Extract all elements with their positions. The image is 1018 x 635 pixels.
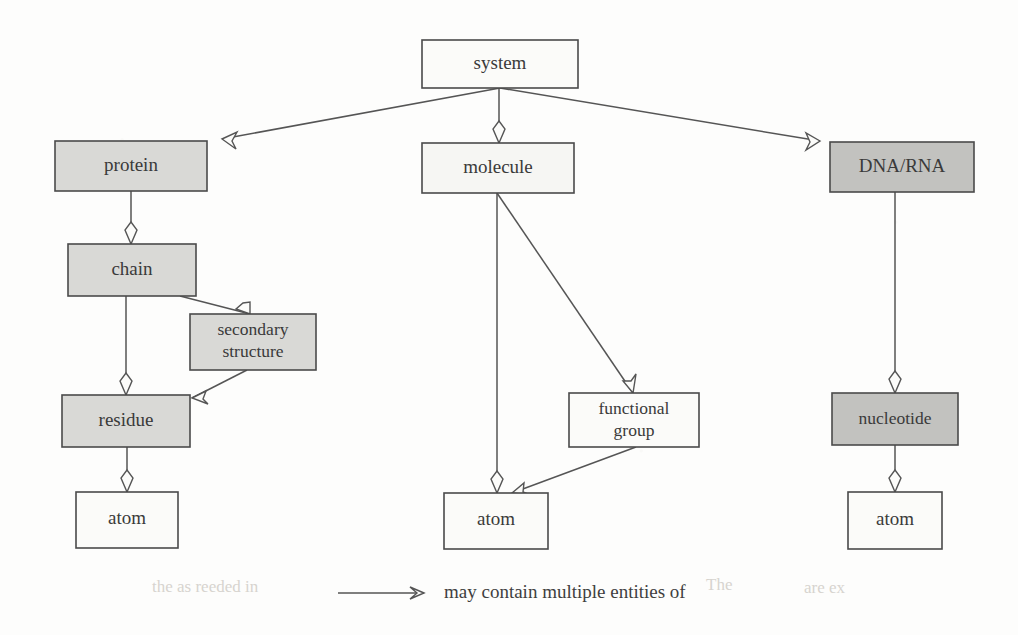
node-atom-mid[interactable]: atom	[444, 493, 548, 549]
node-secondary-structure[interactable]: secondary structure	[190, 314, 316, 370]
node-functional-group[interactable]: functional group	[569, 393, 699, 447]
node-label-secondary-line2: structure	[222, 341, 283, 361]
node-chain[interactable]: chain	[68, 244, 196, 296]
diagram-canvas: the as reeded in The are ex	[0, 0, 1018, 635]
node-label-nucleotide: nucleotide	[859, 408, 932, 428]
node-nucleotide[interactable]: nucleotide	[832, 393, 958, 445]
node-label-atom-left: atom	[108, 507, 146, 528]
node-atom-left[interactable]: atom	[76, 492, 178, 548]
node-label-protein: protein	[104, 154, 158, 175]
node-residue[interactable]: residue	[62, 395, 190, 447]
ghost-text: the as reeded in	[152, 577, 259, 596]
node-label-funcgroup-line2: group	[614, 420, 655, 440]
node-label-residue: residue	[99, 409, 154, 430]
legend-label: may contain multiple entities of	[444, 581, 686, 602]
ghost-text: The	[706, 575, 732, 594]
node-label-funcgroup-line1: functional	[599, 398, 670, 418]
node-molecule[interactable]: molecule	[422, 143, 574, 193]
node-label-atom-mid: atom	[477, 508, 515, 529]
node-system[interactable]: system	[422, 40, 578, 88]
node-dnarna[interactable]: DNA/RNA	[830, 142, 974, 192]
hierarchy-diagram: the as reeded in The are ex	[0, 0, 1018, 635]
node-protein[interactable]: protein	[55, 141, 207, 191]
node-label-dnarna: DNA/RNA	[859, 155, 946, 176]
ghost-text: are ex	[804, 578, 846, 597]
node-label-atom-right: atom	[876, 508, 914, 529]
node-atom-right[interactable]: atom	[848, 492, 942, 549]
node-label-secondary-line1: secondary	[218, 319, 289, 339]
node-label-chain: chain	[111, 258, 153, 279]
node-label-molecule: molecule	[463, 156, 533, 177]
node-label-system: system	[474, 52, 527, 73]
